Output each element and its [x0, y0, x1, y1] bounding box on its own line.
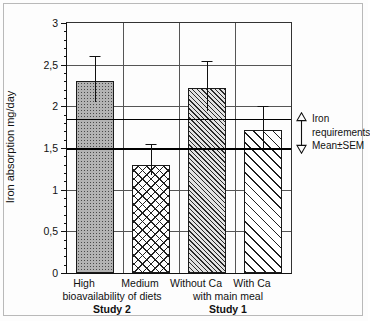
- ytick-minor: [64, 48, 68, 49]
- ytick-0_5: [61, 231, 67, 232]
- ytick-label-0_5: 0,5: [43, 225, 58, 237]
- plot-area: 3 2,5 2 1,5 1 0,5 0: [66, 22, 292, 274]
- ytick-minor: [64, 256, 68, 257]
- ytick-minor: [64, 248, 68, 249]
- ytick-label-3: 3: [52, 17, 58, 29]
- errorbar-high: [87, 56, 103, 102]
- errorbar-stem: [95, 56, 96, 102]
- study-label-2: Study 2: [54, 303, 170, 315]
- ytick-minor: [64, 81, 68, 82]
- ytick-minor: [64, 90, 68, 91]
- bar-medium[interactable]: [132, 165, 170, 273]
- double-arrow-icon: [296, 112, 307, 154]
- bar-without-ca[interactable]: [188, 88, 226, 273]
- ytick-minor: [64, 240, 68, 241]
- errorbar-medium: [143, 144, 159, 175]
- ytick-minor: [64, 165, 68, 166]
- ytick-2: [61, 106, 67, 107]
- group-label-study2: bioavailability of diets: [54, 290, 170, 302]
- errorbar-cap-top: [90, 56, 101, 57]
- bar-high[interactable]: [76, 81, 114, 273]
- ytick-2_5: [61, 65, 67, 66]
- category-label-medium: Medium: [112, 277, 168, 289]
- ytick-minor: [64, 223, 68, 224]
- legend-line-1: Iron: [312, 112, 370, 126]
- ytick-minor: [64, 131, 68, 132]
- ytick-minor: [64, 31, 68, 32]
- errorbar-stem: [207, 61, 208, 111]
- legend: Iron requirements Mean±SEM: [296, 112, 370, 154]
- category-label-without-ca: Without Ca: [168, 277, 224, 289]
- legend-line-3: Mean±SEM: [312, 139, 370, 153]
- ytick-minor: [64, 56, 68, 57]
- ytick-label-1_5: 1,5: [43, 142, 58, 154]
- ytick-label-2_5: 2,5: [43, 59, 58, 71]
- ytick-minor: [64, 140, 68, 141]
- errorbar-cap-top: [202, 61, 213, 62]
- ytick-minor: [64, 181, 68, 182]
- y-axis-label: Iron absorption mg/day: [4, 91, 16, 204]
- ytick-minor: [64, 115, 68, 116]
- legend-line-2: requirements: [312, 126, 370, 140]
- ytick-3: [61, 23, 67, 24]
- ytick-minor: [64, 40, 68, 41]
- errorbar-cap-top: [258, 106, 269, 107]
- errorbar-without-ca: [199, 61, 215, 111]
- ytick-minor: [64, 265, 68, 266]
- errorbar-stem: [263, 106, 264, 152]
- ytick-minor: [64, 123, 68, 124]
- category-label-high: High: [56, 277, 112, 289]
- ytick-label-1: 1: [52, 184, 58, 196]
- ytick-minor: [64, 198, 68, 199]
- ytick-label-2: 2: [52, 100, 58, 112]
- category-label-with-ca: With Ca: [224, 277, 280, 289]
- study-label-1: Study 1: [170, 303, 286, 315]
- ytick-minor: [64, 215, 68, 216]
- errorbar-with-ca: [255, 106, 271, 152]
- ytick-minor: [64, 206, 68, 207]
- ytick-minor: [64, 73, 68, 74]
- legend-text: Iron requirements Mean±SEM: [312, 112, 370, 153]
- ytick-minor: [64, 98, 68, 99]
- errorbar-cap-top: [146, 144, 157, 145]
- ytick-1: [61, 190, 67, 191]
- ytick-minor: [64, 156, 68, 157]
- errorbar-stem: [151, 144, 152, 175]
- ytick-minor: [64, 173, 68, 174]
- group-label-study1: with main meal: [170, 290, 286, 302]
- ytick-0: [61, 273, 67, 274]
